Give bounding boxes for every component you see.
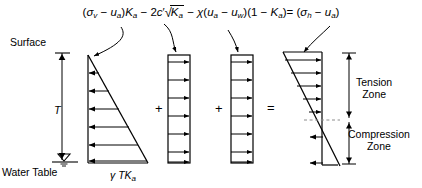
leader-to-diagram-2 <box>164 24 176 52</box>
pressure-arrows-left <box>89 73 147 161</box>
equation-leader-arrows <box>94 24 330 56</box>
zone-dimension-line <box>342 53 356 164</box>
diagram-3-suction <box>231 55 253 163</box>
diagram-1-overburden <box>88 55 148 163</box>
diagram-4-result <box>283 52 340 166</box>
pressure-arrows-right <box>231 62 252 162</box>
figure-canvas: (σv − ua)Ka − 2c′√Ka − χ(ua − uw)(1 − Ka… <box>0 0 422 188</box>
leader-to-diagram-4 <box>304 26 330 52</box>
pressure-arrows-right <box>168 62 189 162</box>
diagram-2-cohesion <box>168 55 190 163</box>
compression-arrows-left <box>310 137 323 163</box>
diagram-vector-layer <box>0 0 422 188</box>
surface-reference-tick <box>55 53 70 160</box>
water-table-symbol <box>52 154 78 166</box>
leader-to-diagram-1 <box>94 27 123 56</box>
leader-to-diagram-3 <box>228 30 238 52</box>
